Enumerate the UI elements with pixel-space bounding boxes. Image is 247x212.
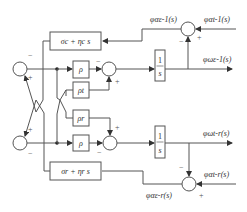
integrator-bottom-block: 1 s	[155, 126, 165, 158]
sigma-bottom-block: σr + ηr s	[50, 162, 101, 180]
sign-minus: −	[179, 163, 184, 172]
sigma-bottom-label: σr + ηr s	[61, 167, 90, 176]
sign-minus: −	[96, 57, 101, 66]
summing-junction-left-bottom	[13, 136, 27, 150]
rho-t-block: ρt	[73, 82, 89, 98]
control-block-diagram: σc + ηc s ρ 1 s ρt ρ	[0, 0, 247, 212]
sign-minus: −	[179, 37, 184, 46]
summing-junction-mid-top	[102, 62, 116, 76]
rho-top-label: ρ	[78, 65, 83, 74]
sign-plus: +	[115, 77, 120, 86]
sign-plus: +	[28, 73, 33, 82]
integrator-bottom-den: s	[158, 146, 161, 155]
label-top-reference: φαt-1(s)	[204, 15, 230, 24]
sign-minus: −	[28, 149, 33, 158]
rho-bottom-block: ρ	[73, 135, 89, 151]
rho-r-block: ρr	[73, 110, 89, 126]
summing-junction-top-right	[181, 22, 195, 36]
summing-junction-bottom-right	[182, 177, 196, 191]
sign-plus: +	[115, 123, 120, 132]
sign-minus: −	[97, 148, 102, 157]
rho-t-label: ρt	[77, 86, 85, 95]
rho-r-label: ρr	[77, 114, 86, 123]
sigma-top-label: σc + ηc s	[61, 37, 91, 46]
summing-junction-mid-bottom	[103, 136, 117, 150]
integrator-top-den: s	[158, 69, 161, 78]
label-top-output: φωε-1(s)	[203, 55, 232, 64]
sign-minus: −	[28, 51, 33, 60]
integrator-bottom-num: 1	[158, 132, 162, 141]
label-bottom-reference: φαt-r(s)	[204, 170, 229, 179]
sign-plus: +	[199, 191, 204, 200]
label-bottom-output: φωt-r(s)	[203, 129, 230, 138]
sigma-top-block: σc + ηc s	[50, 32, 101, 50]
sign-plus: +	[28, 125, 33, 134]
integrator-top-num: 1	[158, 56, 162, 65]
integrator-top-block: 1 s	[155, 50, 165, 81]
rho-top-block: ρ	[73, 61, 89, 78]
summing-junction-left-top	[13, 62, 27, 76]
label-top-error: φαε-1(s)	[150, 15, 177, 24]
label-bottom-error: φαε-r(s)	[146, 191, 172, 200]
rho-bottom-label: ρ	[78, 139, 83, 148]
sign-plus: +	[197, 33, 202, 42]
